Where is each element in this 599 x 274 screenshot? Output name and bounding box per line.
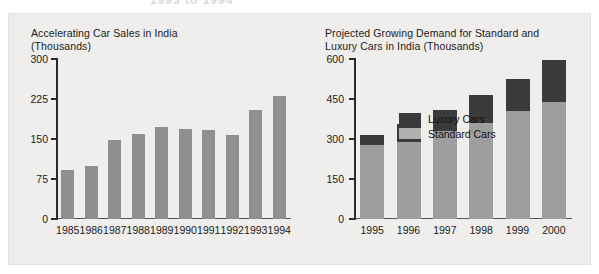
bar-segment [132,134,145,219]
chart-page: 1993 to 1994 Accelerating Car Sales in I… [0,0,599,274]
bar-segment-standard [397,142,421,219]
chart-car-sales-india: Accelerating Car Sales in India (Thousan… [9,14,309,266]
x-tick-label: 1988 [127,224,150,236]
bar-segment-standard [542,102,566,219]
x-tick-label: 1997 [433,224,456,236]
y-tick-label: 300 [14,53,48,65]
legend-label: Standard Cars [428,128,496,140]
plot-area-left: 075150225300 [56,59,291,219]
chart-title-right: Projected Growing Demand for Standard an… [325,27,570,52]
chart-legend: Luxury CarsStandard Cars [399,112,496,142]
cut-off-header-strip: 1993 to 1994 [0,0,599,11]
x-tick-label: 1987 [103,224,126,236]
bar[interactable] [132,134,145,219]
x-tick-label: 1996 [397,224,420,236]
bar-segment [108,140,121,219]
y-tick-label: 450 [310,93,344,105]
bar[interactable] [85,166,98,219]
x-tick-label: 1999 [506,224,529,236]
bar-segment [61,170,74,219]
cut-off-header-text: 1993 to 1994 [150,0,233,7]
bar-segment [273,96,286,219]
bar[interactable] [108,140,121,219]
x-tick-label: 1989 [150,224,173,236]
y-tick-label: 600 [310,53,344,65]
bar-segment-luxury [542,60,566,101]
bar[interactable] [61,170,74,219]
legend-swatch-icon [399,113,421,124]
bar-segment-luxury [506,79,530,111]
y-tick-label: 0 [14,213,48,225]
bar-segment [202,130,215,219]
chart-title-left: Accelerating Car Sales in India (Thousan… [31,27,281,52]
x-tick-label: 1985 [56,224,79,236]
bar-segment-luxury [360,135,384,145]
x-tick-label: 2000 [542,224,565,236]
bar-segment [226,135,239,219]
x-tick-label: 1993 [244,224,267,236]
legend-item[interactable]: Luxury Cars [399,112,496,125]
y-tick-label: 0 [310,213,344,225]
bar-segment [155,127,168,219]
bar-segment-standard [433,131,457,219]
bar-segment [85,166,98,219]
bar[interactable] [273,96,286,219]
chart-projected-demand: Projected Growing Demand for Standard an… [301,14,592,266]
bar[interactable] [542,60,566,219]
x-tick-label: 1994 [268,224,291,236]
bar[interactable] [179,129,192,219]
y-tick-label: 150 [14,133,48,145]
legend-label: Luxury Cars [428,113,485,125]
bar[interactable] [226,135,239,219]
x-tick-label: 1991 [197,224,220,236]
bar-series-left [56,59,291,219]
charts-panel: Accelerating Car Sales in India (Thousan… [8,13,591,265]
bar[interactable] [360,135,384,219]
x-tick-label: 1986 [80,224,103,236]
x-tick-label: 1995 [360,224,383,236]
x-tick-label: 1992 [221,224,244,236]
bar[interactable] [249,110,262,219]
legend-swatch-icon [399,128,421,139]
bar[interactable] [202,130,215,219]
x-tick-label: 1990 [174,224,197,236]
y-tick-label: 225 [14,93,48,105]
plot-area-right: 0150300450600 Luxury CarsStandard Cars [354,59,572,219]
y-tick-label: 300 [310,133,344,145]
bar-segment [249,110,262,219]
bar-segment [179,129,192,219]
x-tick-label: 1998 [469,224,492,236]
y-tick-label: 75 [14,173,48,185]
bar-segment-standard [506,111,530,219]
bar[interactable] [155,127,168,219]
bar[interactable] [506,79,530,219]
y-tick-label: 150 [310,173,344,185]
bar-segment-standard [360,145,384,219]
legend-item[interactable]: Standard Cars [399,127,496,140]
